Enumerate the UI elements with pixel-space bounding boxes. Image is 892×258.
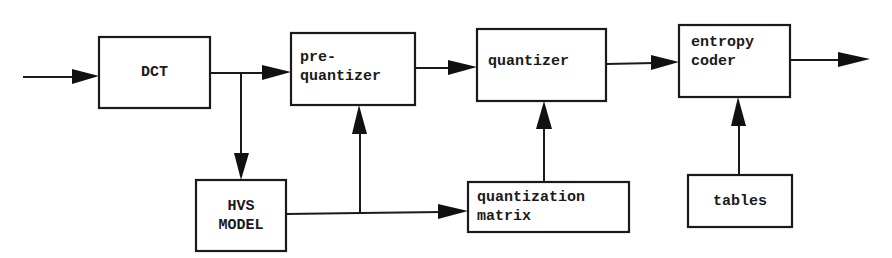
prequantizer-to-quantizer-arrow <box>415 60 477 75</box>
quantizer-to-entropy-coder-arrow <box>606 55 679 70</box>
dct-label: DCT <box>99 63 210 82</box>
hvs-model-label-line2: MODEL <box>196 216 286 235</box>
tables-label: tables <box>688 192 792 211</box>
hvs-model-label-line1: HVS <box>196 197 286 216</box>
entropy-coder-label-line1: entropy <box>691 33 754 52</box>
hvs-to-quantization-matrix-arrow <box>286 204 468 219</box>
hvs-to-prequantizer-arrow <box>352 105 367 213</box>
entropy-coder-label-line2: coder <box>691 52 736 71</box>
prequantizer-label-line2: quantizer <box>300 67 381 86</box>
prequantizer-label-line1: pre- <box>300 48 336 67</box>
dct-to-prequantizer-arrow <box>210 65 291 80</box>
block-diagram-canvas <box>0 0 892 258</box>
quantization-matrix-to-quantizer-arrow <box>536 101 552 182</box>
dct-to-hvs-arrow <box>234 73 249 180</box>
quantization-matrix-label-line2: matrix <box>477 207 531 226</box>
quantizer-label: quantizer <box>488 52 569 71</box>
output-arrow <box>790 52 870 67</box>
input-arrow <box>23 69 99 84</box>
quantization-matrix-label-line1: quantization <box>477 188 585 207</box>
tables-to-entropy-coder-arrow <box>731 97 746 175</box>
